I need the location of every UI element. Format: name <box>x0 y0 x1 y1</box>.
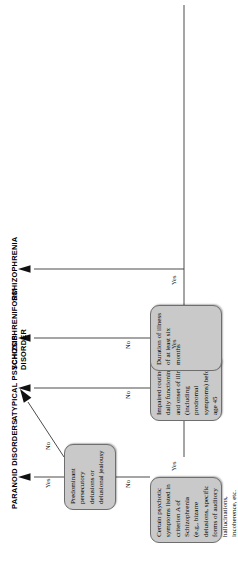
edge-label-impaired-yes: Yes <box>170 339 177 349</box>
arrowhead-impaired-no <box>18 384 31 392</box>
rotated-figure-wrapper: Certain psychotic symptoms listed in cri… <box>0 0 230 561</box>
edge-label-impaired-no: No <box>124 391 131 399</box>
outcome-schizophrenia: SCHIZOPHRENIA <box>10 181 19 301</box>
arrowhead-persecutory-yes <box>18 473 31 481</box>
edge-label-criterion-yes: Yes <box>170 461 177 471</box>
edge-label-persecutory-yes: Yes <box>44 478 51 488</box>
edge-label-criterion-no: No <box>124 480 131 488</box>
flowchart-canvas: Certain psychotic symptoms listed in cri… <box>0 0 230 561</box>
edge-label-duration-yes: Yes <box>170 275 177 285</box>
node-duration[interactable]: Duration of illness of at least six mont… <box>150 305 222 371</box>
node-persecutory[interactable]: Predominant persecutory delusions or del… <box>64 444 116 510</box>
edge-label-duration-no: No <box>124 341 131 349</box>
edge-label-persecutory-no: No <box>44 442 51 450</box>
node-criterion-a[interactable]: Certain psychotic symptoms listed in cri… <box>150 477 222 543</box>
